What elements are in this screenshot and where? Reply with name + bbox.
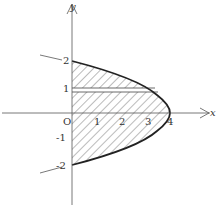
y-tick-1: 1 (63, 83, 69, 94)
x-tick-3: 3 (145, 116, 151, 127)
y-tick-neg1: -1 (56, 132, 66, 143)
x-tick-2: 2 (119, 116, 125, 127)
x-tick-1: 1 (94, 116, 100, 127)
y-tick-2: 2 (63, 55, 69, 66)
y-axis-label: y (69, 1, 76, 12)
parabola-diagram: y x O 1 2 3 4 2 1 -1 -2 (0, 0, 220, 207)
y-tick-neg2: -2 (56, 160, 66, 171)
x-tick-4: 4 (167, 116, 173, 127)
x-axis-label: x (210, 107, 216, 118)
origin-label: O (63, 116, 71, 127)
